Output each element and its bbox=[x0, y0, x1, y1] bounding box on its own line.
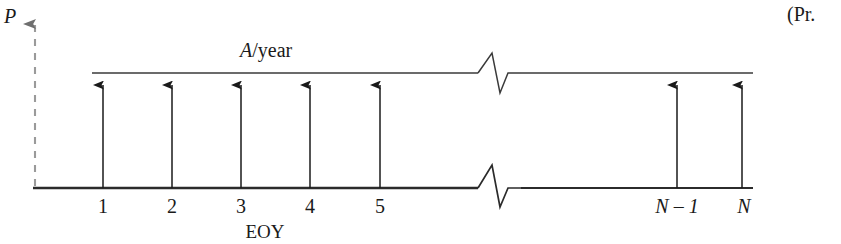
tick-label-year-4: 4 bbox=[305, 196, 315, 216]
tick-label-year-1: 1 bbox=[98, 196, 108, 216]
tick-label-year-n-minus-1: N – 1 bbox=[655, 196, 698, 216]
margin-note: (Pr. bbox=[787, 4, 815, 24]
annuity-top-line bbox=[92, 53, 753, 93]
diagram-canvas bbox=[0, 0, 841, 244]
tick-label-year-3: 3 bbox=[236, 196, 246, 216]
axis-caption: EOY bbox=[245, 222, 284, 241]
annuity-label-units: /year bbox=[252, 39, 292, 61]
tick-label-year-2: 2 bbox=[167, 196, 177, 216]
tick-label-year-n: N bbox=[737, 196, 750, 216]
time-axis-baseline bbox=[33, 165, 753, 207]
present-worth-label: P bbox=[4, 6, 16, 26]
cash-flow-diagram bbox=[0, 0, 841, 244]
topline-break-symbol bbox=[478, 53, 521, 93]
annuity-label-symbol: A bbox=[240, 39, 252, 61]
tick-label-year-5: 5 bbox=[375, 196, 385, 216]
annuity-arrows bbox=[103, 85, 742, 188]
annuity-label: A/year bbox=[240, 40, 292, 60]
baseline-break-symbol bbox=[478, 165, 521, 207]
